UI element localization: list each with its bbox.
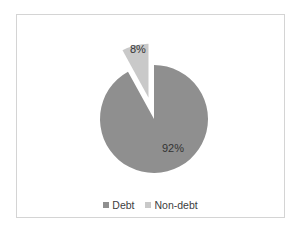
legend-label-non-debt: Non-debt [154, 199, 197, 211]
legend-item-non-debt: Non-debt [145, 199, 197, 211]
legend-swatch-debt [103, 202, 109, 208]
data-label-debt: 92% [162, 142, 184, 154]
data-label-non-debt: 8% [130, 43, 146, 55]
legend-item-debt: Debt [103, 199, 134, 211]
legend: Debt Non-debt [0, 198, 301, 211]
pie-slice-debt [100, 65, 208, 173]
pie-chart [0, 0, 301, 227]
legend-label-debt: Debt [112, 199, 134, 211]
legend-swatch-non-debt [145, 202, 151, 208]
